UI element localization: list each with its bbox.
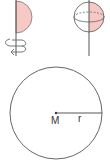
sphere-shaded-half	[89, 2, 104, 32]
circle-panel: M r	[10, 67, 102, 159]
center-label: M	[51, 115, 59, 126]
radius-label: r	[78, 113, 82, 124]
diagram-canvas: M r	[0, 0, 110, 160]
semicircle-rotation-panel	[6, 0, 33, 56]
sphere-panel	[74, 0, 104, 56]
semicircle-shape	[16, 1, 32, 33]
